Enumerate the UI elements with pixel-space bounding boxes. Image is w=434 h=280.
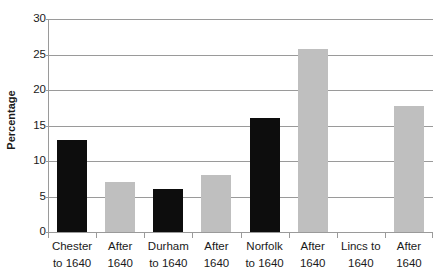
x-axis-label-line2: to 1640 [48, 255, 96, 272]
x-axis-label-line2: 1640 [385, 255, 433, 272]
bar-chart: Percentage 051015202530 Chesterto 1640Af… [0, 0, 434, 280]
bar-1 [105, 182, 135, 232]
x-axis-label-line2: 1640 [337, 255, 385, 272]
x-axis-label-line1: After [385, 238, 433, 255]
x-axis-label-line2: to 1640 [144, 255, 192, 272]
bar-2 [153, 189, 183, 232]
x-axis-label-4: Norfolkto 1640 [241, 238, 289, 272]
x-axis-label-7: After1640 [385, 238, 433, 272]
x-axis-label-line1: Chester [48, 238, 96, 255]
x-axis-label-1: After1640 [96, 238, 144, 272]
y-tick-label-15: 15 [20, 120, 46, 132]
y-tick-label-10: 10 [20, 155, 46, 167]
x-axis-label-line1: Lincs to [337, 238, 385, 255]
x-axis-label-line2: 1640 [96, 255, 144, 272]
x-axis-label-2: Durhamto 1640 [144, 238, 192, 272]
bars-layer [48, 19, 433, 232]
y-axis-title: Percentage [0, 0, 22, 240]
x-axis-label-5: After1640 [289, 238, 337, 272]
y-tick-label-0: 0 [20, 226, 46, 238]
y-tick-label-20: 20 [20, 84, 46, 96]
y-tick-label-30: 30 [20, 13, 46, 25]
x-axis-label-6: Lincs to1640 [337, 238, 385, 272]
y-axis-title-text: Percentage [5, 90, 17, 149]
x-axis-label-line2: 1640 [192, 255, 240, 272]
x-axis-label-line1: After [289, 238, 337, 255]
y-tick-label-5: 5 [20, 191, 46, 203]
bar-0 [57, 140, 87, 232]
x-axis-label-line1: After [192, 238, 240, 255]
y-tick-label-25: 25 [20, 49, 46, 61]
bar-5 [298, 49, 328, 232]
x-axis-tick-labels: Chesterto 1640After1640Durhamto 1640Afte… [48, 238, 433, 280]
plot-area [48, 19, 433, 232]
x-axis-label-line1: Norfolk [241, 238, 289, 255]
x-axis-label-0: Chesterto 1640 [48, 238, 96, 272]
bar-4 [250, 118, 280, 232]
x-axis-label-line2: to 1640 [241, 255, 289, 272]
x-axis-label-line2: 1640 [289, 255, 337, 272]
x-axis-label-3: After1640 [192, 238, 240, 272]
bar-3 [201, 175, 231, 232]
x-axis-label-line1: After [96, 238, 144, 255]
x-axis-label-line1: Durham [144, 238, 192, 255]
bar-7 [394, 106, 424, 232]
y-axis-tick-labels: 051015202530 [20, 0, 46, 240]
